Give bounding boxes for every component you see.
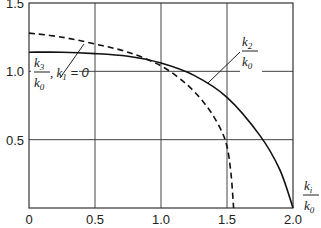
x-tick-label: 0.5 [86, 212, 104, 227]
x-axis-label: ki k0 [303, 178, 319, 215]
x-tick-label: 1.0 [152, 212, 170, 227]
x-tick-label: 1.5 [218, 212, 236, 227]
x-tick-label: 2.0 [284, 212, 302, 227]
y-tick-label: 0.5 [6, 133, 24, 148]
grid-lines [29, 3, 293, 208]
x-label-num: ki [304, 178, 313, 195]
chart: 00.51.01.52.00.51.01.5 k2 k0 k3 k0 , k1 … [0, 0, 321, 228]
x-tick-label: 0 [25, 212, 32, 227]
x-label-den: k0 [304, 198, 315, 215]
y-tick-label: 1.0 [6, 64, 24, 79]
label-k1-eq: , k1 = 0 [50, 65, 90, 82]
y-tick-label: 1.5 [6, 0, 24, 11]
